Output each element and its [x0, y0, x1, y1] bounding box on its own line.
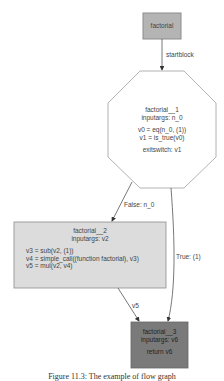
block3-inputargs: inputargs: v6	[131, 336, 188, 344]
block2-op: v4 = simple_call((function factorial), v…	[26, 255, 166, 263]
figure-caption: Figure 11.3: The example of flow graph	[0, 372, 224, 381]
block2-title: factorial__2	[14, 227, 166, 235]
edge-true	[168, 188, 174, 321]
block3-title: factorial__3	[131, 328, 188, 336]
start-node: factorial	[143, 22, 181, 30]
edge-label-false: False: n_0	[124, 201, 154, 209]
block2-op: v3 = sub(v2, (1))	[26, 247, 166, 255]
block1-exitswitch: exitswitch: v1	[108, 146, 216, 154]
block2-node: factorial__2 inputargs: v2 v3 = sub(v2, …	[14, 227, 166, 270]
block1-inputargs: inputargs: n_0	[108, 114, 216, 122]
start-node-label: factorial	[143, 22, 181, 30]
block3-return: return v6	[131, 348, 188, 356]
block3-node: factorial__3 inputargs: v6 return v6	[131, 328, 188, 356]
edge-label-v5: v5	[132, 302, 139, 310]
edge-label-true: True: (1)	[176, 253, 201, 261]
block1-title: factorial__1	[108, 106, 216, 114]
edge-label-startblock: startblock	[166, 51, 194, 59]
block1-op: v0 = eq(n_0, (1))	[108, 126, 216, 134]
block1-node: factorial__1 inputargs: n_0 v0 = eq(n_0,…	[108, 106, 216, 154]
block2-op: v5 = mul(v2, v4)	[26, 262, 166, 270]
block2-inputargs: inputargs: v2	[14, 235, 166, 243]
block1-op: v1 = is_true(v0)	[108, 134, 216, 142]
